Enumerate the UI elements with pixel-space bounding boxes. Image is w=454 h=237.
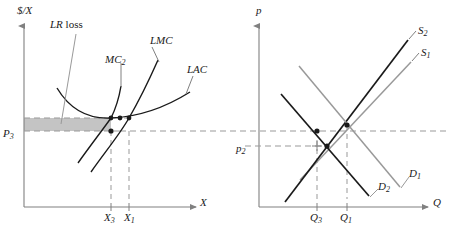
dot-s2-d2-equilibrium	[314, 128, 319, 133]
mc2-label-base: MC	[105, 53, 122, 65]
d1-label-base: D	[409, 167, 417, 179]
lac-curve-label: LAC	[187, 64, 207, 75]
right-y-axis-label: p	[256, 5, 262, 16]
d1-label-leader-line	[401, 177, 409, 188]
figure-canvas	[0, 0, 454, 237]
dot-p2-equilibrium	[324, 143, 329, 148]
s1-supply-curve	[300, 62, 411, 180]
s1-label-leader-line	[412, 53, 419, 61]
lac-label-leader-line	[186, 76, 193, 94]
left-y-axis-label: $/X	[17, 5, 32, 16]
d1-label-subscript: 1	[417, 172, 421, 181]
p3-axis-label: P3	[3, 128, 14, 141]
p3-label-subscript: 3	[10, 132, 14, 141]
right-x-axis-label: Q	[433, 197, 441, 208]
d2-label-subscript: 2	[386, 185, 390, 194]
q3-axis-label: Q3	[310, 212, 322, 225]
x3-label-subscript: 3	[111, 216, 115, 225]
d2-label-leader-line	[370, 189, 378, 197]
d1-demand-curve	[299, 66, 400, 187]
p2-axis-label: p2	[236, 143, 246, 156]
d2-curve-label: D2	[378, 181, 390, 194]
lmc-curve	[91, 60, 158, 172]
q1-label-subscript: 1	[348, 216, 352, 225]
lr-loss-roman: loss	[66, 18, 83, 30]
q1-axis-label: Q1	[340, 212, 352, 225]
dot-p3-equilibrium	[108, 128, 113, 133]
q1-label-base: Q	[340, 211, 348, 223]
x1-label-base: X	[124, 211, 131, 223]
dot-lac-min	[127, 116, 132, 121]
mc2-label-subscript: 2	[122, 58, 126, 67]
dot-lmc-upper	[118, 116, 123, 121]
lr-loss-annotation: LR loss	[50, 19, 83, 30]
p3-label-base: P	[3, 127, 10, 139]
x1-axis-label: X1	[124, 212, 135, 225]
s2-curve-label: S2	[418, 25, 428, 38]
lac-curve	[57, 88, 190, 118]
lr-loss-leader-line	[61, 34, 76, 124]
s1-label-subscript: 1	[427, 51, 431, 60]
x3-label-base: X	[104, 211, 111, 223]
lmc-curve-label: LMC	[150, 35, 173, 46]
left-x-axis-label: X	[200, 197, 207, 208]
lr-loss-shaded-area	[24, 118, 111, 131]
lr-loss-italic: LR	[50, 18, 63, 30]
dot-s1-d1-equilibrium	[344, 122, 349, 127]
x3-axis-label: X3	[104, 212, 115, 225]
dot-mc2-lac-upper	[109, 116, 114, 121]
economics-figure: $/X LR loss MC2 LMC LAC P3 X3 X1 X p S2 …	[0, 0, 454, 237]
s2-label-leader-line	[409, 31, 416, 39]
mc2-curve-label: MC2	[105, 54, 126, 67]
d1-curve-label: D1	[409, 168, 421, 181]
q3-label-base: Q	[310, 211, 318, 223]
p2-label-subscript: 2	[242, 147, 246, 156]
q3-label-subscript: 3	[318, 216, 322, 225]
lmc-label-leader-line	[152, 47, 159, 62]
x1-label-subscript: 1	[131, 216, 135, 225]
s2-label-subscript: 2	[424, 29, 428, 38]
d2-label-base: D	[378, 180, 386, 192]
s1-curve-label: S1	[421, 47, 431, 60]
